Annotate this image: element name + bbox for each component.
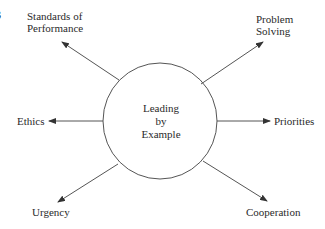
- center-label-line2: by: [156, 115, 168, 127]
- label-priorities: Priorities: [274, 115, 314, 127]
- label-problem-line2: Solving: [256, 25, 291, 37]
- center-label-line1: Leading: [143, 102, 180, 114]
- leading-by-example-diagram: Leading by Example Standards of Performa…: [0, 0, 325, 229]
- label-standards-line1: Standards of: [27, 10, 83, 22]
- arrow-urgency: [58, 164, 118, 202]
- label-urgency: Urgency: [32, 206, 70, 218]
- label-standards-line2: Performance: [27, 22, 83, 34]
- arrow-standards: [62, 42, 119, 80]
- label-ethics: Ethics: [17, 115, 45, 127]
- label-cooperation: Cooperation: [246, 206, 301, 218]
- center-label-line3: Example: [141, 128, 180, 140]
- arrow-problem-solving: [201, 42, 263, 84]
- label-problem-line1: Problem: [256, 13, 294, 25]
- arrow-cooperation: [203, 161, 267, 201]
